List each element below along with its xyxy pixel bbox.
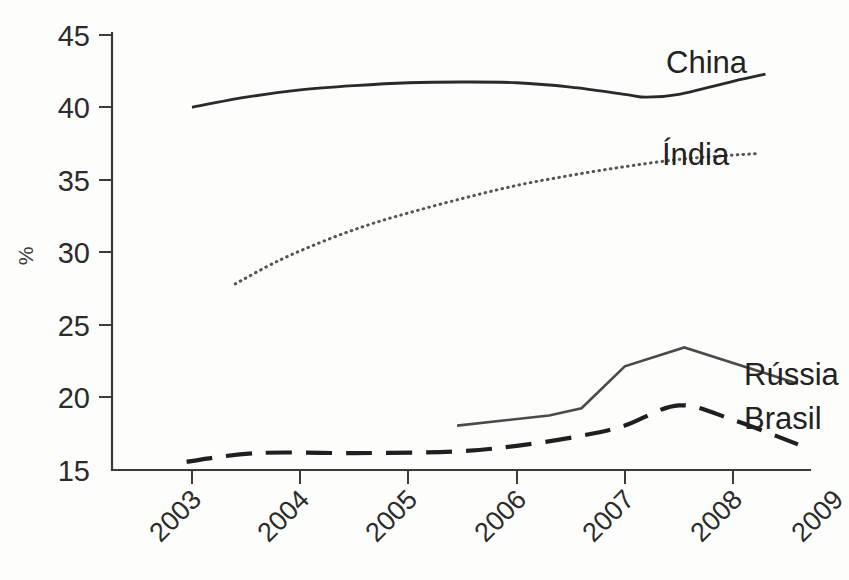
- y-axis-title: %: [14, 247, 37, 266]
- y-tick-label-40: 40: [58, 92, 90, 124]
- series-label-india: Índia: [662, 137, 730, 172]
- y-tick-label-30: 30: [58, 237, 90, 269]
- y-tick-label-45: 45: [58, 20, 90, 52]
- y-tick-label-20: 20: [58, 382, 90, 414]
- series-line-india: [235, 154, 760, 284]
- x-tick-label-2005: 2005: [360, 484, 424, 548]
- x-axis-ticks: [192, 470, 733, 484]
- x-tick-label-2009: 2009: [786, 484, 849, 548]
- x-tick-label-2008: 2008: [685, 484, 749, 548]
- x-tick-label-2003: 2003: [144, 484, 208, 548]
- x-tick-label-2007: 2007: [577, 484, 641, 548]
- y-axis-ticks: [99, 35, 112, 397]
- series-label-russia: Rússia: [744, 357, 840, 392]
- series-label-china: China: [666, 45, 748, 80]
- line-chart: 45 40 35 30 25 20 15 % 2003 2004 2005 20…: [0, 0, 849, 580]
- y-tick-label-25: 25: [58, 310, 90, 342]
- x-tick-label-2004: 2004: [252, 484, 316, 548]
- series-label-brasil: Brasil: [744, 401, 822, 436]
- x-tick-label-2006: 2006: [469, 484, 533, 548]
- chart-container: 45 40 35 30 25 20 15 % 2003 2004 2005 20…: [0, 0, 849, 580]
- series-line-brasil: [187, 405, 798, 461]
- y-tick-label-15: 15: [58, 455, 90, 487]
- y-tick-label-35: 35: [58, 165, 90, 197]
